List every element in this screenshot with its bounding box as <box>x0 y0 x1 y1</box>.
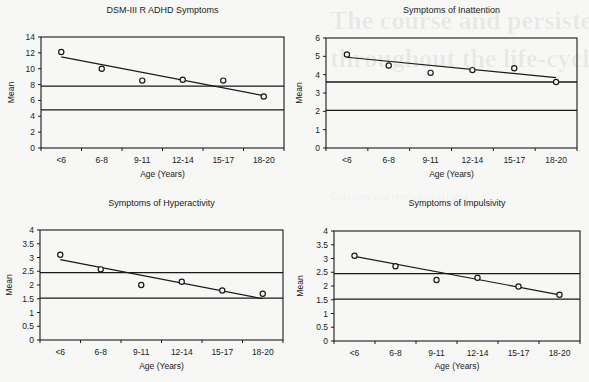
y-axis-label: Mean <box>294 82 304 104</box>
y-tick-label: 0.5 <box>22 321 34 331</box>
x-tick-label: 6-8 <box>96 155 109 165</box>
x-tick-label: 18-20 <box>549 348 571 358</box>
data-point-marker <box>221 78 226 83</box>
y-tick-label: 0 <box>30 143 35 153</box>
data-point-marker <box>139 282 144 287</box>
y-tick-label: 8 <box>30 80 35 90</box>
y-tick-label: 12 <box>26 48 36 58</box>
x-tick-label: 18-20 <box>252 347 274 357</box>
y-tick-label: 10 <box>26 64 36 74</box>
y-tick-label: 2 <box>315 106 320 116</box>
chart-title: DSM-III R ADHD Symptoms <box>106 5 219 15</box>
y-tick-label: 2.5 <box>22 266 34 276</box>
data-point-marker <box>98 267 103 272</box>
x-tick-label: 6-8 <box>383 155 396 165</box>
y-tick-label: 2 <box>29 280 34 290</box>
x-tick-label: 9-11 <box>133 347 150 357</box>
y-tick-label: 5 <box>315 51 320 61</box>
y-tick-label: 0 <box>29 335 34 345</box>
plot-area-frame <box>334 231 580 341</box>
trend-line <box>355 256 560 295</box>
y-tick-label: 2.5 <box>316 267 328 277</box>
y-tick-label: 6 <box>315 33 320 43</box>
y-axis-label: Mean <box>4 274 14 296</box>
x-tick-label: 12-14 <box>172 155 194 165</box>
data-point-marker <box>434 277 439 282</box>
x-tick-label: 9-11 <box>422 155 439 165</box>
y-tick-label: 3.5 <box>22 239 34 249</box>
y-tick-label: 1 <box>315 125 320 135</box>
y-tick-label: 4 <box>315 70 320 80</box>
data-point-marker <box>179 279 184 284</box>
data-point-marker <box>260 291 265 296</box>
data-point-marker <box>512 66 517 71</box>
trend-line <box>61 57 264 96</box>
x-tick-label: 18-20 <box>253 155 275 165</box>
data-point-marker <box>344 52 349 57</box>
x-tick-label: 6-8 <box>389 348 402 358</box>
data-point-marker <box>261 94 266 99</box>
x-tick-label: 9-11 <box>428 348 445 358</box>
x-tick-label: 15-17 <box>212 155 234 165</box>
data-point-marker <box>475 275 480 280</box>
x-tick-label: 6-8 <box>95 347 108 357</box>
data-point-marker <box>59 49 64 54</box>
x-tick-label: 15-17 <box>211 347 233 357</box>
y-tick-label: 1 <box>323 309 328 319</box>
data-point-marker <box>220 288 225 293</box>
data-point-marker <box>180 77 185 82</box>
chart-adhd-symptoms: DSM-III R ADHD Symptoms02468101214<66-89… <box>6 5 284 179</box>
plot-area-frame <box>326 38 577 148</box>
y-tick-label: 0.5 <box>316 322 328 332</box>
plot-area-frame <box>40 230 283 340</box>
data-point-marker <box>352 253 357 258</box>
x-axis-label: Age (Years) <box>140 169 185 179</box>
x-tick-label: <6 <box>342 155 352 165</box>
data-point-marker <box>470 67 475 72</box>
y-tick-label: 2 <box>323 281 328 291</box>
x-tick-label: 9-11 <box>134 155 151 165</box>
y-tick-label: 3 <box>323 254 328 264</box>
y-tick-label: 6 <box>30 95 35 105</box>
y-tick-label: 3 <box>315 88 320 98</box>
trend-line <box>347 57 556 77</box>
chart-title: Symptoms of Impulsivity <box>408 198 506 208</box>
x-tick-label: 12-14 <box>462 155 484 165</box>
x-axis-label: Age (Years) <box>139 361 184 371</box>
y-tick-label: 4 <box>323 226 328 236</box>
y-tick-label: 1.5 <box>316 295 328 305</box>
x-tick-label: <6 <box>56 155 66 165</box>
data-point-marker <box>58 252 63 257</box>
x-axis-label: Age (Years) <box>429 169 474 179</box>
y-axis-label: Mean <box>6 82 16 104</box>
data-point-marker <box>386 63 391 68</box>
data-point-marker <box>428 70 433 75</box>
chart-hyperactivity: Symptoms of Hyperactivity00.511.522.533.… <box>4 198 283 371</box>
x-tick-label: 15-17 <box>508 348 530 358</box>
y-tick-label: 3 <box>29 253 34 263</box>
data-point-marker <box>557 292 562 297</box>
data-point-marker <box>99 66 104 71</box>
x-axis-label: Age (Years) <box>435 361 480 371</box>
trend-line <box>60 260 263 299</box>
figure-canvas: DSM-III R ADHD Symptoms02468101214<66-89… <box>0 0 589 382</box>
y-tick-label: 4 <box>29 225 34 235</box>
data-point-marker <box>516 284 521 289</box>
y-tick-label: 2 <box>30 127 35 137</box>
y-tick-label: 4 <box>30 111 35 121</box>
data-point-marker <box>140 78 145 83</box>
data-point-marker <box>553 79 558 84</box>
x-tick-label: 18-20 <box>545 155 567 165</box>
x-tick-label: 12-14 <box>467 348 489 358</box>
x-tick-label: <6 <box>55 347 65 357</box>
x-tick-label: <6 <box>350 348 360 358</box>
chart-inattention: Symptoms of Inattention0123456<66-89-111… <box>294 5 577 179</box>
y-tick-label: 1 <box>29 308 34 318</box>
chart-impulsivity: Symptoms of Impulsivity00.511.522.533.54… <box>295 198 580 371</box>
data-point-marker <box>393 264 398 269</box>
y-tick-label: 3.5 <box>316 240 328 250</box>
y-axis-label: Mean <box>295 275 305 297</box>
chart-title: Symptoms of Hyperactivity <box>108 198 215 208</box>
y-tick-label: 0 <box>323 336 328 346</box>
y-tick-label: 1.5 <box>22 294 34 304</box>
